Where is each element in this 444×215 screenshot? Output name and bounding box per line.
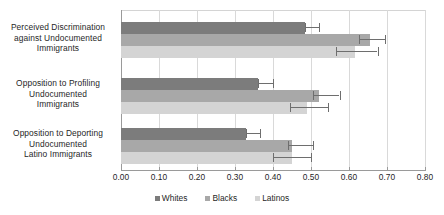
bar-row bbox=[121, 22, 425, 34]
value-axis-tick-label: 0.00 bbox=[101, 172, 141, 182]
bar-latinos bbox=[121, 152, 292, 164]
error-bar bbox=[305, 27, 318, 28]
category-axis-labels: Perceived Discrimination against Undocum… bbox=[0, 10, 116, 170]
value-axis-tick-label: 0.60 bbox=[329, 172, 369, 182]
error-bar bbox=[258, 83, 273, 84]
legend-swatch-icon bbox=[255, 196, 260, 201]
error-bar-cap bbox=[311, 153, 312, 162]
category-label-line: Undocumented bbox=[0, 89, 116, 100]
category-label-line: Undocumented bbox=[0, 139, 116, 150]
category-label-line: against Undocumented bbox=[0, 33, 116, 44]
value-axis-tick-label: 0.70 bbox=[367, 172, 407, 182]
error-bar-cap bbox=[340, 91, 341, 100]
legend-item-blacks[interactable]: Blacks bbox=[205, 193, 237, 203]
chart-legend: WhitesBlacksLatinos bbox=[0, 193, 444, 203]
category-label-line: Immigrants bbox=[0, 43, 116, 54]
error-bar-cap bbox=[359, 35, 360, 44]
error-bar-cap bbox=[313, 141, 314, 150]
legend-label: Latinos bbox=[262, 193, 289, 203]
bar-row bbox=[121, 140, 425, 152]
value-axis-tick-mark bbox=[121, 167, 122, 171]
error-bar bbox=[290, 107, 328, 108]
value-axis-tick-label: 0.10 bbox=[139, 172, 179, 182]
legend-swatch-icon bbox=[155, 196, 160, 201]
plot-area bbox=[121, 10, 425, 170]
bar-whites bbox=[121, 128, 246, 140]
error-bar-cap bbox=[328, 103, 329, 112]
category-label-opposition-deporting: Opposition to Deporting Undocumented Lat… bbox=[0, 128, 116, 160]
value-axis-tick-mark bbox=[387, 167, 388, 171]
error-bar-cap bbox=[305, 23, 306, 32]
bar-row bbox=[121, 102, 425, 114]
bar-row bbox=[121, 90, 425, 102]
error-bar bbox=[288, 145, 313, 146]
bar-row bbox=[121, 128, 425, 140]
bar-blacks bbox=[121, 90, 319, 102]
error-bar bbox=[359, 39, 386, 40]
value-axis-tick-mark bbox=[349, 167, 350, 171]
error-bar bbox=[246, 133, 259, 134]
error-bar-cap bbox=[260, 129, 261, 138]
bar-blacks bbox=[121, 34, 370, 46]
legend-item-whites[interactable]: Whites bbox=[155, 193, 188, 203]
error-bar-cap bbox=[319, 23, 320, 32]
value-axis-tick-mark bbox=[311, 167, 312, 171]
bar-chart: Perceived Discrimination against Undocum… bbox=[0, 0, 444, 215]
value-axis-tick-label: 0.80 bbox=[405, 172, 444, 182]
error-bar-cap bbox=[313, 91, 314, 100]
error-bar bbox=[273, 157, 311, 158]
bar-group bbox=[121, 128, 425, 164]
error-bar-cap bbox=[273, 153, 274, 162]
error-bar-cap bbox=[336, 47, 337, 56]
bar-latinos bbox=[121, 102, 307, 114]
error-bar-cap bbox=[288, 141, 289, 150]
category-label-line: Latino Immigrants bbox=[0, 149, 116, 160]
value-axis-tick-label: 0.40 bbox=[253, 172, 293, 182]
bar-row bbox=[121, 46, 425, 58]
bar-latinos bbox=[121, 46, 355, 58]
bar-group bbox=[121, 78, 425, 114]
error-bar-cap bbox=[273, 79, 274, 88]
bar-row bbox=[121, 78, 425, 90]
error-bar-cap bbox=[258, 79, 259, 88]
value-axis-tick-mark bbox=[425, 167, 426, 171]
bar-whites bbox=[121, 78, 258, 90]
error-bar-cap bbox=[378, 47, 379, 56]
value-axis-tick-mark bbox=[273, 167, 274, 171]
value-axis-tick-label: 0.20 bbox=[177, 172, 217, 182]
category-label-line: Perceived Discrimination bbox=[0, 22, 116, 33]
value-axis-tick-labels: 0.000.100.200.300.400.500.600.700.80 bbox=[121, 172, 425, 186]
error-bar bbox=[336, 51, 378, 52]
error-bar-cap bbox=[246, 129, 247, 138]
bar-group bbox=[121, 22, 425, 58]
category-label-line: Opposition to Profiling bbox=[0, 78, 116, 89]
value-axis-tick-mark bbox=[159, 167, 160, 171]
bar-row bbox=[121, 152, 425, 164]
value-axis-tick-label: 0.30 bbox=[215, 172, 255, 182]
value-axis-tick-mark bbox=[197, 167, 198, 171]
legend-label: Whites bbox=[162, 193, 188, 203]
legend-swatch-icon bbox=[205, 196, 210, 201]
value-axis-tick-mark bbox=[235, 167, 236, 171]
category-label-opposition-profiling: Opposition to Profiling Undocumented Imm… bbox=[0, 78, 116, 110]
error-bar-cap bbox=[290, 103, 291, 112]
category-label-line: Opposition to Deporting bbox=[0, 128, 116, 139]
error-bar bbox=[313, 95, 340, 96]
category-label-line: Immigrants bbox=[0, 99, 116, 110]
bar-whites bbox=[121, 22, 305, 34]
category-label-perceived-discrimination: Perceived Discrimination against Undocum… bbox=[0, 22, 116, 54]
legend-item-latinos[interactable]: Latinos bbox=[255, 193, 289, 203]
value-axis-tick-label: 0.50 bbox=[291, 172, 331, 182]
bar-row bbox=[121, 34, 425, 46]
gridline bbox=[425, 10, 426, 170]
legend-label: Blacks bbox=[212, 193, 237, 203]
error-bar-cap bbox=[385, 35, 386, 44]
bar-blacks bbox=[121, 140, 292, 152]
